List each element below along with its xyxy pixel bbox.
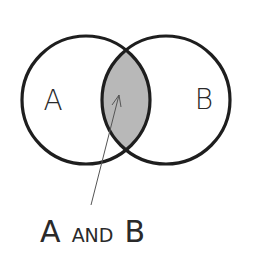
set-a-label: A (43, 84, 62, 117)
intersection-label-part-b: B (125, 214, 146, 249)
set-b-label: B (195, 83, 213, 116)
intersection-label: A AND B (40, 214, 145, 249)
venn-diagram: A B A AND B (0, 0, 259, 262)
intersection-label-part-a: A (40, 214, 61, 249)
intersection-label-part-and: AND (72, 224, 114, 246)
